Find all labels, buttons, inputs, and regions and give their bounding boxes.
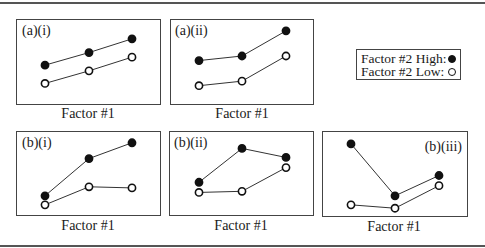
filled-marker-icon: [128, 139, 135, 146]
filled-marker-icon: [238, 52, 245, 59]
filled-marker-icon: [195, 57, 202, 64]
filled-marker-icon: [41, 192, 48, 199]
filled-marker-icon: [282, 154, 289, 161]
series-line: [351, 144, 439, 196]
open-marker-icon: [391, 205, 398, 212]
filled-marker-icon: [85, 155, 92, 162]
open-marker-icon: [85, 183, 92, 190]
open-marker-icon: [195, 189, 202, 196]
filled-marker-icon: [41, 62, 48, 69]
open-marker-icon: [128, 184, 135, 191]
open-marker-icon: [41, 201, 48, 208]
filled-marker-icon: [347, 140, 354, 147]
open-marker-icon: [128, 54, 135, 61]
filled-marker-icon: [435, 172, 442, 179]
series-line: [199, 148, 286, 182]
open-marker-icon: [282, 52, 289, 59]
open-marker-icon: [41, 80, 48, 87]
filled-marker-icon: [238, 145, 245, 152]
open-marker-icon: [238, 188, 245, 195]
plot-layer: [0, 0, 485, 248]
open-marker-icon: [238, 78, 245, 85]
open-marker-icon: [347, 201, 354, 208]
filled-marker-icon: [128, 35, 135, 42]
open-marker-icon: [435, 182, 442, 189]
filled-marker-icon: [282, 27, 289, 34]
open-marker-icon: [282, 164, 289, 171]
filled-marker-icon: [391, 192, 398, 199]
open-marker-icon: [195, 82, 202, 89]
open-marker-icon: [85, 67, 92, 74]
filled-marker-icon: [195, 179, 202, 186]
filled-marker-icon: [85, 49, 92, 56]
